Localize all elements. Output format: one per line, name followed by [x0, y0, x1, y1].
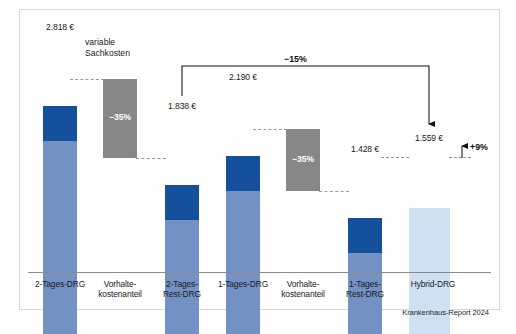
dash-connector-2: [136, 158, 166, 159]
bracket-label-minus-15: −15%: [284, 54, 307, 64]
x-axis-label-1-tages-rest-drg: 1-Tages- Rest-DRG: [331, 279, 399, 300]
bar-value-label-hybrid-drg: 1.559 €: [392, 133, 466, 143]
dash-connector-4: [319, 191, 349, 192]
dash-connector-1: [70, 79, 104, 80]
bar-value-label-1-tages-rest-drg: 1.428 €: [328, 144, 402, 154]
x-axis-label-vorhaltekostenanteil-2: Vorhalte- kostenanteil: [267, 279, 339, 300]
source-credit: Krankenhaus-Report 2024: [402, 308, 489, 317]
chart-figure: 2.818 € −35% 1.838 € 2.190 € −35%: [0, 0, 516, 334]
callout-variable-sachkosten: variable Sachkosten: [85, 37, 165, 59]
bar-vorhaltekostenanteil-1: −35%: [103, 79, 137, 158]
bar-inline-pct-label-2: −35%: [286, 154, 320, 164]
bar-2-tages-rest-drg: [165, 185, 199, 334]
bar-value-label-2-tages-rest-drg: 1.838 €: [145, 101, 219, 111]
dash-connector-5: [381, 157, 409, 158]
uplift-label-plus-9: +9%: [470, 142, 488, 152]
bar-1-tages-rest-drg: [348, 218, 382, 334]
bar-segment-rest-anteil-3: [226, 191, 260, 334]
bar-2-tages-drg: [43, 106, 77, 334]
x-axis-label-vorhaltekostenanteil-1: Vorhalte- kostenanteil: [84, 279, 156, 300]
x-axis-baseline: [28, 272, 491, 273]
x-axis-label-hybrid-drg: Hybrid-DRG: [395, 279, 471, 289]
bar-segment-rest-anteil-2: [165, 220, 199, 334]
bar-segment-variable-sachkosten-4: [348, 218, 382, 253]
bar-segment-rest-anteil: [43, 141, 77, 334]
dash-connector-6: [449, 157, 471, 158]
bar-value-label-2-tages-drg: 2.818 €: [23, 22, 97, 32]
plot-area: 2.818 € −35% 1.838 € 2.190 € −35%: [0, 0, 516, 334]
bar-inline-pct-label-1: −35%: [103, 112, 137, 122]
bar-segment-variable-sachkosten-2: [165, 185, 199, 220]
bar-1-tages-drg: [226, 156, 260, 334]
bar-vorhaltekostenanteil-2: −35%: [286, 129, 320, 191]
bar-segment-variable-sachkosten: [43, 106, 77, 141]
dash-connector-3: [253, 129, 287, 130]
bar-segment-variable-sachkosten-3: [226, 156, 260, 191]
bar-value-label-1-tages-drg: 2.190 €: [206, 72, 280, 82]
